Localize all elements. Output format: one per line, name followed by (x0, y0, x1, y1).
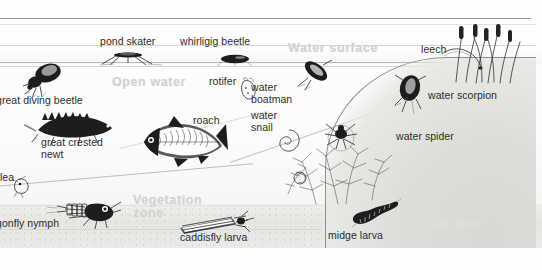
label-great-crested-newt: great crested newt (41, 137, 103, 161)
zone-label-bottom-mud: Bottom mud (405, 218, 482, 231)
reeds-illustration (448, 22, 524, 84)
pond-ecosystem-figure: Water surface Open water Vegetation zone… (0, 0, 542, 270)
label-water-spider: water spider (396, 131, 454, 143)
label-roach: roach (193, 115, 220, 127)
pondweed-illustration (286, 120, 396, 206)
label-pond-skater: pond skater (100, 36, 155, 48)
label-water-snail: water snail (251, 110, 277, 134)
whirligig-beetle-illustration (216, 53, 254, 67)
midge-larva-illustration (348, 196, 402, 228)
zone-label-open-water: Open water (112, 76, 186, 89)
water-scorpion-illustration (392, 72, 432, 116)
label-whirligig-beetle: whirligig beetle (180, 36, 250, 48)
pond-skater-illustration (98, 49, 164, 67)
zone-label-water-surface: Water surface (288, 42, 378, 55)
label-water-flea: flea (0, 172, 14, 184)
label-dragonfly-nymph: gonfly nymph (0, 218, 59, 230)
label-rotifer: rotifer (209, 76, 236, 88)
label-leech: leech (421, 44, 446, 56)
label-water-boatman: water boatman (251, 82, 292, 106)
label-caddisfly-larva: caddisfly larva (180, 232, 247, 244)
label-water-scorpion: water scorpion (428, 90, 497, 102)
water-boatman-illustration (296, 58, 338, 92)
label-midge-larva: midge larva (328, 230, 383, 242)
